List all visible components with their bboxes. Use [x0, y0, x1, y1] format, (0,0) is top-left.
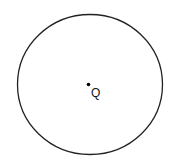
circle-diagram: Q [0, 0, 172, 163]
point-label-q: Q [91, 86, 100, 100]
center-point-q [87, 83, 91, 87]
